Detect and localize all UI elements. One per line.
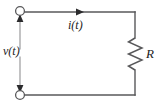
resistor-label: R: [146, 47, 154, 60]
voltage-label: v(t): [3, 45, 20, 57]
resistor-zigzag-icon: [129, 38, 143, 70]
bottom-terminal-node-icon: [16, 91, 25, 100]
circuit-diagram-figure: v(t) i(t) R: [0, 0, 161, 106]
top-terminal-node-icon: [16, 7, 25, 16]
current-arrow-right-icon: [76, 9, 84, 16]
circuit-schematic-canvas: [0, 0, 161, 106]
current-label: i(t): [68, 19, 83, 31]
